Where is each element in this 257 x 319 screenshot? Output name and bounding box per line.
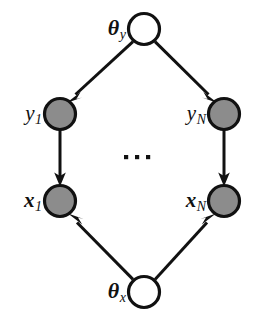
edge-y-n-to-x-n <box>218 129 230 187</box>
edge-theta-x-to-x-n <box>155 214 216 280</box>
graph-canvas <box>0 0 257 319</box>
ellipsis-dots <box>124 155 150 159</box>
edge-theta-y-to-y-n <box>155 42 218 103</box>
node-x-1[interactable] <box>45 186 76 217</box>
node-x-n[interactable] <box>209 186 240 217</box>
node-y-1[interactable] <box>45 99 76 130</box>
node-label-y-1: y1 <box>25 103 42 127</box>
edge-theta-x-to-x-1 <box>68 214 133 280</box>
edge-theta-y-to-y-1 <box>67 42 134 103</box>
node-label-y-n: yN <box>187 103 206 127</box>
node-label-theta-y: θy <box>108 17 126 42</box>
node-label-theta-x: θx <box>108 280 126 305</box>
node-theta-x[interactable] <box>129 277 160 308</box>
graphical-model-diagram: θy y1 yN x1 xN θx <box>0 0 257 319</box>
node-label-x-n: xN <box>186 190 206 214</box>
node-y-n[interactable] <box>209 99 240 130</box>
node-theta-y[interactable] <box>129 14 160 45</box>
edge-y-1-to-x-1 <box>54 129 66 187</box>
node-label-x-1: x1 <box>24 190 42 214</box>
